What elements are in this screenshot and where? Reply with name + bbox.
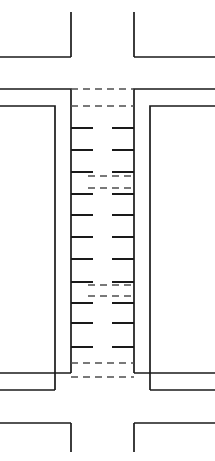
intersection-diagram [0,0,215,461]
diagram-background [0,0,215,461]
diagram-canvas [0,0,215,461]
